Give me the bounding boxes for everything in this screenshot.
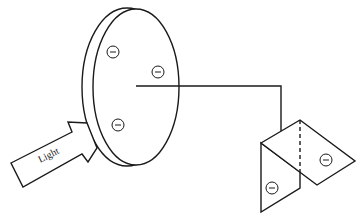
leaf-charge-2 [266, 182, 278, 194]
disc-charge-2 [152, 66, 164, 78]
leaf-charge-1 [320, 154, 332, 166]
disc-charge-3 [112, 119, 124, 131]
electroscope-leaves [261, 120, 355, 212]
metal-disc [82, 8, 179, 166]
disc-face [93, 9, 179, 165]
disc-charge-1 [107, 46, 119, 58]
diagram-canvas: Light [0, 0, 363, 222]
light-arrow: Light [11, 122, 97, 187]
